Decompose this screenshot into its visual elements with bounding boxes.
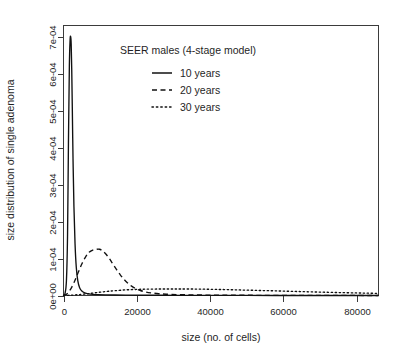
legend-label-10-years: 10 years — [180, 67, 220, 79]
y-tick-label: 2e-04 — [47, 210, 58, 234]
x-tick-label: 0 — [62, 306, 67, 317]
legend-label-30-years: 30 years — [180, 101, 220, 113]
y-tick-label: 5e-04 — [47, 99, 58, 123]
y-tick-label: 4e-04 — [47, 136, 58, 160]
y-tick-label: 6e-04 — [47, 62, 58, 86]
y-tick-label: 1e-04 — [47, 247, 58, 271]
x-axis-title: size (no. of cells) — [182, 331, 261, 343]
y-tick-label: 0e+00 — [47, 283, 58, 310]
y-tick-label: 7e-04 — [47, 25, 58, 49]
size-distribution-line-chart: 020000400006000080000 0e+001e-042e-043e-… — [0, 0, 399, 361]
x-tick-label: 80000 — [344, 306, 370, 317]
x-tick-label: 40000 — [197, 306, 223, 317]
y-tick-label: 3e-04 — [47, 173, 58, 197]
legend-label-20-years: 20 years — [180, 84, 220, 96]
x-tick-label: 60000 — [270, 306, 296, 317]
plot-title: SEER males (4-stage model) — [120, 44, 256, 56]
y-axis-title: size distribution of single adenoma — [4, 79, 16, 240]
chart-figure: 020000400006000080000 0e+001e-042e-043e-… — [0, 0, 399, 361]
x-tick-label: 20000 — [124, 306, 150, 317]
